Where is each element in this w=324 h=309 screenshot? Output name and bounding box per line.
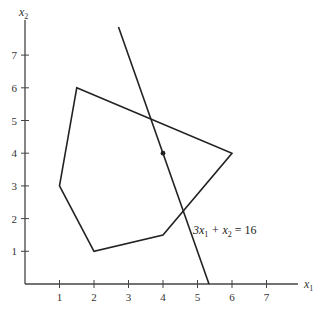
constraint-equation-label: 3x1 + x2 = 16 — [192, 223, 257, 239]
x-tick-label: 1 — [57, 291, 63, 303]
x-tick-label: 4 — [160, 291, 166, 303]
constraint-line — [118, 27, 208, 284]
y-tick-label: 7 — [12, 49, 18, 61]
point-marker — [161, 151, 166, 156]
y-tick-label: 1 — [12, 245, 18, 257]
x-tick-label: 5 — [195, 291, 201, 303]
y-ticks: 1234567 — [12, 49, 30, 257]
feasible-region-polygon — [60, 88, 233, 252]
x-tick-label: 3 — [126, 291, 132, 303]
x-tick-label: 7 — [264, 291, 270, 303]
y-tick-label: 6 — [12, 82, 18, 94]
y-tick-label: 2 — [12, 213, 18, 225]
y-tick-label: 3 — [12, 180, 18, 192]
y-tick-label: 4 — [12, 147, 18, 159]
x-axis-label: x1 — [303, 277, 313, 293]
x-tick-label: 6 — [229, 291, 235, 303]
diagram-canvas: 1234567 1234567 x1 x2 3x1 + x2 = 16 — [0, 0, 324, 309]
y-tick-label: 5 — [12, 115, 18, 127]
y-axis-label: x2 — [18, 5, 28, 21]
x-tick-label: 2 — [91, 291, 97, 303]
